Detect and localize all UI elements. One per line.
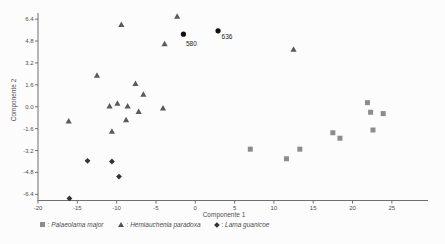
scatter-point-triangle: [114, 100, 120, 106]
scatter-point-triangle: [66, 118, 72, 124]
y-tick-label: -6.4: [23, 191, 34, 197]
scatter-point-triangle: [174, 13, 180, 19]
scatter-point-triangle: [125, 103, 131, 109]
scatter-point-diamond: [109, 159, 115, 165]
square-marker-icon: [40, 222, 45, 227]
scatter-point-square: [370, 128, 375, 133]
axes-layer: -20-15-10-505101520256.44.83.21.60.0-1.6…: [23, 13, 428, 211]
data-points-layer: 580636: [66, 13, 386, 201]
scatter-point-triangle: [123, 117, 129, 123]
x-tick-label: 0: [194, 205, 198, 211]
y-tick-label: -1.6: [23, 126, 34, 132]
y-tick-label: 0.0: [25, 104, 34, 110]
x-tick-label: -10: [112, 205, 121, 211]
x-tick-label: -20: [34, 205, 43, 211]
scatter-point-square: [248, 147, 253, 152]
scatter-point-square: [297, 147, 302, 152]
y-tick-label: 4.8: [25, 38, 34, 44]
legend-item: : Palaeolama major: [40, 221, 104, 228]
scatter-point-diamond: [85, 158, 91, 164]
x-tick-label: -15: [73, 205, 82, 211]
y-tick-label: 1.6: [25, 82, 34, 88]
scatter-point-circle: [181, 32, 186, 37]
scatter-point-square: [365, 100, 370, 105]
scatter-plot: -20-15-10-505101520256.44.83.21.60.0-1.6…: [0, 0, 445, 220]
scatter-point-triangle: [140, 91, 146, 97]
x-tick-label: 20: [349, 205, 356, 211]
scatter-point-triangle: [160, 105, 166, 111]
diamond-marker-icon: [214, 222, 219, 227]
y-tick-label: -4.8: [23, 169, 34, 175]
x-tick-label: 25: [388, 205, 395, 211]
y-tick-label: -3.2: [23, 148, 34, 154]
y-tick-label: 3.2: [25, 60, 34, 66]
x-tick-label: 10: [271, 205, 278, 211]
y-axis-title: Componente 2: [10, 78, 18, 121]
scatter-point-square: [381, 111, 386, 116]
legend-item: : Lama guanicoe: [215, 221, 270, 228]
triangle-marker-icon: [118, 222, 124, 227]
scatter-point-square: [284, 156, 289, 161]
scatter-point-triangle: [118, 22, 124, 28]
scatter-point-triangle: [132, 80, 138, 86]
legend-item: : Hemiauchenia paradoxa: [118, 221, 201, 228]
scatter-point-circle: [215, 28, 220, 33]
chart-legend: : Palaeolama major: Hemiauchenia paradox…: [40, 221, 269, 228]
x-tick-label: 15: [310, 205, 317, 211]
scatter-point-diamond: [116, 174, 122, 180]
scatter-point-triangle: [94, 72, 100, 78]
point-label: 580: [186, 40, 197, 47]
y-tick-label: 6.4: [25, 16, 34, 22]
point-label: 636: [222, 33, 233, 40]
legend-label: : Hemiauchenia paradoxa: [127, 221, 201, 228]
legend-label: : Palaeolama major: [48, 221, 104, 228]
scatter-point-triangle: [161, 41, 167, 47]
scatter-point-triangle: [136, 108, 142, 114]
scatter-point-square: [330, 130, 335, 135]
scatter-point-triangle: [106, 103, 112, 109]
scatter-point-triangle: [109, 128, 115, 134]
scatter-point-square: [337, 136, 342, 141]
pca-scatter-figure: -20-15-10-505101520256.44.83.21.60.0-1.6…: [0, 0, 445, 244]
scatter-point-square: [368, 110, 373, 115]
x-axis-title: Componente 1: [203, 211, 246, 219]
legend-label: : Lama guanicoe: [221, 221, 269, 228]
x-tick-label: -5: [153, 205, 159, 211]
scatter-point-triangle: [290, 46, 296, 52]
